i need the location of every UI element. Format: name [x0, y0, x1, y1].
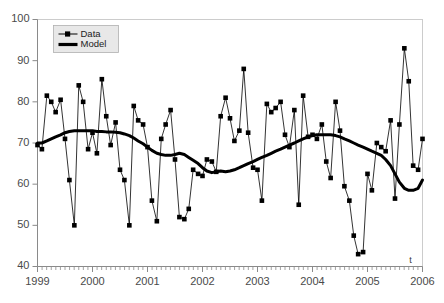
svg-text:100: 100	[11, 12, 29, 24]
svg-text:2002: 2002	[190, 275, 214, 287]
svg-text:40: 40	[17, 259, 29, 271]
svg-text:70: 70	[17, 136, 29, 148]
legend-label-model: Model	[81, 38, 107, 49]
line-chart: 405060708090100 199920002001200220032004…	[0, 0, 444, 303]
svg-text:60: 60	[17, 177, 29, 189]
svg-text:80: 80	[17, 95, 29, 107]
svg-text:50: 50	[17, 218, 29, 230]
chart-figure: 405060708090100 199920002001200220032004…	[0, 0, 444, 303]
svg-text:90: 90	[17, 54, 29, 66]
svg-text:2005: 2005	[355, 275, 379, 287]
svg-text:2004: 2004	[300, 275, 324, 287]
svg-text:2006: 2006	[410, 275, 434, 287]
svg-text:2001: 2001	[135, 275, 159, 287]
legend-label-data: Data	[81, 28, 102, 39]
svg-text:1999: 1999	[25, 275, 49, 287]
svg-text:2003: 2003	[245, 275, 269, 287]
chart-legend: DataModel	[54, 26, 119, 53]
svg-text:2000: 2000	[80, 275, 104, 287]
